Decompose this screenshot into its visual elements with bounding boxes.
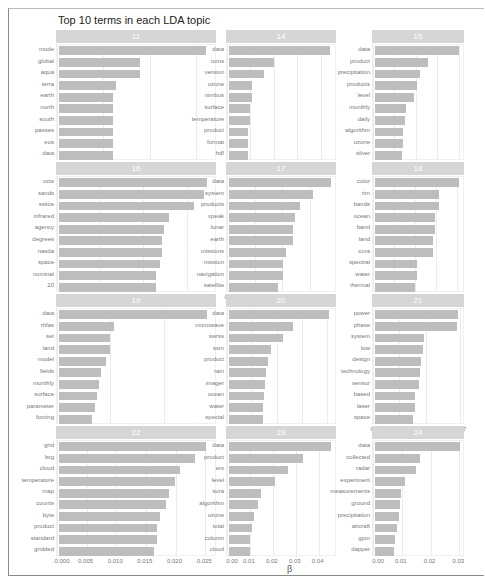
term-label: daily (358, 116, 370, 122)
bar (375, 271, 417, 280)
bar (59, 70, 140, 79)
term-label: ers (216, 465, 224, 471)
bar-row: infrared (57, 212, 215, 224)
x-tick-label: 0.00 (372, 558, 384, 564)
bar-row: spectral (373, 258, 463, 270)
term-label: technology (341, 368, 370, 374)
bar-row: collected (373, 453, 463, 465)
bar-row: rain (227, 367, 335, 379)
facet-topic-15: 15dataproductprecipitationproductslevelm… (372, 30, 464, 172)
term-label: data (212, 178, 224, 184)
bar (229, 403, 263, 412)
facet-strip-label: 15 (372, 30, 464, 43)
bar-row: water (373, 270, 463, 282)
term-label: ssm (213, 345, 224, 351)
bar (375, 116, 405, 125)
term-label: agency (35, 224, 54, 230)
term-label: toms (211, 58, 224, 64)
bar (229, 70, 264, 79)
bar-row: experiment (373, 476, 463, 488)
bar (375, 93, 414, 102)
bar (229, 190, 313, 199)
bar-row: system (227, 189, 335, 201)
term-label: passes (35, 127, 54, 133)
term-label: mission (204, 259, 224, 265)
bar-row: thermal (373, 281, 463, 293)
bar-row: microwave (227, 321, 335, 333)
bar (375, 310, 458, 319)
bar-row: data (227, 309, 335, 321)
bar-row: product (227, 453, 335, 465)
bar-row: design (373, 355, 463, 367)
bar (59, 500, 166, 509)
term-label: format (207, 139, 224, 145)
bar-row: product (227, 126, 335, 138)
bar-row: sstice (57, 200, 215, 212)
term-label: level (358, 92, 370, 98)
bar-row: rim (373, 189, 463, 201)
x-tick-label: 0.01 (243, 558, 255, 564)
term-label: nasda (38, 248, 54, 254)
facet-strip-label: 17 (226, 162, 336, 175)
bar-row: eos (57, 138, 215, 150)
bar (59, 283, 156, 292)
bar-row: gridded (57, 545, 215, 557)
term-label: set (46, 333, 54, 339)
bar (229, 58, 274, 67)
bar-row: cloud (227, 545, 335, 557)
bar-row: lstg (57, 453, 215, 465)
term-label: level (212, 477, 224, 483)
term-label: eos (44, 139, 54, 145)
bar (229, 345, 271, 354)
bar-row: mission (227, 258, 335, 270)
bar-row: data (57, 149, 215, 161)
bar-row: product (227, 355, 335, 367)
term-label: monthly (33, 380, 54, 386)
term-label: temperature (22, 477, 54, 483)
bar-row: land (57, 344, 215, 356)
term-label: terra (42, 81, 54, 87)
bar (229, 46, 330, 55)
term-label: aircraft (352, 523, 370, 529)
term-label: grid (44, 442, 54, 448)
facet-topic-20: 20datamicrowaveswrssssmproductrainimager… (226, 294, 336, 436)
term-label: rain (214, 368, 224, 374)
bar-row: bands (373, 200, 463, 212)
bar (229, 477, 275, 486)
bar (59, 310, 207, 319)
bar (375, 357, 421, 366)
bar-row: data (373, 441, 463, 453)
bar-row: agency (57, 223, 215, 235)
term-label: measurements (330, 488, 370, 494)
bar-row: monthly (373, 103, 463, 115)
term-label: phase (354, 322, 370, 328)
bar (375, 322, 457, 331)
bar-row: ers (227, 464, 335, 476)
term-label: version (205, 69, 224, 75)
bar-row: 20 (57, 281, 215, 293)
bar (375, 104, 406, 113)
facet-strip-label: 16 (56, 162, 216, 175)
x-tick-label: 0.02 (424, 558, 436, 564)
term-label: ocean (354, 213, 370, 219)
facet-strip-label: 22 (56, 426, 216, 439)
bar-row: counts (57, 499, 215, 511)
bar-row: earth (227, 235, 335, 247)
term-label: algorithm (345, 127, 370, 133)
term-label: infrared (34, 213, 54, 219)
facet-topic-19: 19datarhfassetlandmodelfieldsmonthlysurf… (56, 294, 216, 436)
bar-row: aircraft (373, 522, 463, 534)
bar (59, 260, 160, 269)
bar (59, 322, 114, 331)
bar-row: toms (227, 57, 335, 69)
term-label: standard (31, 535, 54, 541)
bar-row: level (227, 476, 335, 488)
term-label: model (38, 356, 54, 362)
term-label: aqua (41, 69, 54, 75)
x-tick-label: 0.010 (108, 558, 123, 564)
bar-row: forcing (57, 413, 215, 425)
bar (59, 368, 101, 377)
bar (229, 512, 254, 521)
term-label: low (361, 345, 370, 351)
bar-row: dapper (373, 545, 463, 557)
